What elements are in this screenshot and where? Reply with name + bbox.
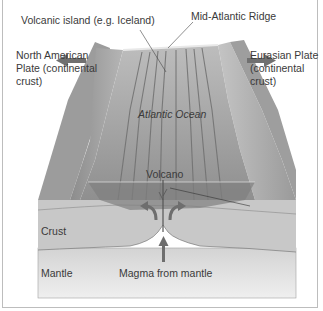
atlantic-ocean-label: Atlantic Ocean: [138, 108, 206, 121]
eurasian-plate-label-line2: (continental: [250, 62, 304, 75]
eurasian-plate-label-line1: Eurasian Plate: [250, 49, 318, 62]
mantle-label: Mantle: [41, 267, 73, 280]
block-diagram: [0, 0, 323, 311]
north-american-plate-label-line2: Plate (continental: [16, 62, 97, 75]
magma-from-mantle-label: Magma from mantle: [119, 267, 212, 280]
north-american-plate-label-line1: North American: [16, 49, 88, 62]
volcanic-island-label: Volcanic island (e.g. Iceland): [21, 14, 155, 27]
mid-atlantic-ridge-label: Mid-Atlantic Ridge: [191, 10, 276, 23]
eurasian-plate-label-line3: crust): [250, 75, 276, 88]
north-american-plate-label-line3: crust): [16, 75, 42, 88]
volcano-label: Volcano: [146, 168, 183, 181]
crust-label: Crust: [41, 225, 66, 238]
